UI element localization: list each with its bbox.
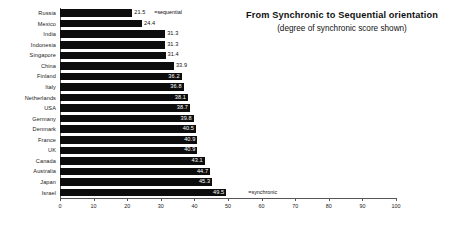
bar-value-label: 33.9 bbox=[176, 62, 187, 70]
bar-row[interactable]: 36.2 bbox=[60, 71, 396, 82]
x-axis-tick-label: 0 bbox=[59, 203, 62, 210]
x-axis-tick-label: 70 bbox=[292, 203, 298, 210]
bar-row[interactable]: 43.1 bbox=[60, 156, 396, 167]
bar-row[interactable]: 45.3 bbox=[60, 177, 396, 188]
bar-value-label: 40.9 bbox=[60, 136, 197, 144]
bar-row[interactable]: 31.3 bbox=[60, 40, 396, 51]
bar-row[interactable]: 36.8 bbox=[60, 82, 396, 93]
category-label: Singapore bbox=[30, 52, 56, 58]
category-label: UK bbox=[48, 147, 56, 153]
bar-row[interactable]: 44.7 bbox=[60, 166, 396, 177]
category-label: Canada bbox=[36, 158, 56, 164]
bar-annotation: =synchronic bbox=[248, 189, 277, 197]
bar[interactable] bbox=[60, 62, 174, 70]
bar-row[interactable]: 24.4 bbox=[60, 19, 396, 30]
bar-row[interactable]: 21.5=sequential bbox=[60, 8, 396, 19]
bar-annotation: =sequential bbox=[154, 9, 182, 17]
x-axis-tick-label: 100 bbox=[392, 203, 401, 210]
bar-value-label: 36.8 bbox=[60, 83, 184, 91]
bar-row[interactable]: 38.7 bbox=[60, 103, 396, 114]
category-label: Italy bbox=[45, 84, 56, 90]
x-axis-tick bbox=[60, 198, 61, 201]
category-axis-labels: RussiaMexicoIndiaIndonesiaSingaporeChina… bbox=[0, 8, 59, 198]
x-axis-tick bbox=[329, 198, 330, 201]
x-axis-tick-label: 10 bbox=[91, 203, 97, 210]
category-label: India bbox=[43, 31, 56, 37]
bar-value-label: 44.7 bbox=[60, 168, 210, 176]
x-axis-tick-label: 40 bbox=[191, 203, 197, 210]
category-label: France bbox=[38, 137, 56, 143]
bar-value-label: 21.5 bbox=[134, 9, 145, 17]
bar[interactable] bbox=[60, 52, 166, 60]
category-label: Israel bbox=[42, 190, 56, 196]
x-axis-tick-label: 80 bbox=[326, 203, 332, 210]
x-axis-tick bbox=[362, 198, 363, 201]
bar-value-label: 38.7 bbox=[60, 104, 190, 112]
x-axis-tick bbox=[295, 198, 296, 201]
bar-value-label: 45.3 bbox=[60, 178, 212, 186]
bar-row[interactable]: 31.3 bbox=[60, 29, 396, 40]
x-axis-tick bbox=[194, 198, 195, 201]
category-label: Mexico bbox=[38, 21, 56, 27]
bar[interactable] bbox=[60, 20, 142, 28]
chart-canvas: From Synchronic to Sequential orientatio… bbox=[0, 0, 456, 233]
x-axis-tick-label: 30 bbox=[158, 203, 164, 210]
bar-row[interactable]: 33.9 bbox=[60, 61, 396, 72]
bar-row[interactable]: 40.9 bbox=[60, 135, 396, 146]
category-label: Denmark bbox=[33, 126, 56, 132]
bar[interactable] bbox=[60, 41, 165, 49]
bar-row[interactable]: 49.5=synchronic bbox=[60, 187, 396, 198]
category-label: Germany bbox=[32, 116, 56, 122]
category-label: Japan bbox=[40, 179, 56, 185]
bar[interactable] bbox=[60, 9, 132, 17]
bar-value-label: 31.4 bbox=[168, 51, 179, 59]
x-axis-tick bbox=[228, 198, 229, 201]
x-axis-tick-label: 60 bbox=[259, 203, 265, 210]
category-label: Netherlands bbox=[25, 95, 56, 101]
bar-row[interactable]: 40.9 bbox=[60, 145, 396, 156]
category-label: Indonesia bbox=[31, 42, 56, 48]
bar-value-label: 43.1 bbox=[60, 157, 205, 165]
category-label: Australia bbox=[33, 168, 56, 174]
bar-value-label: 24.4 bbox=[144, 20, 155, 28]
bar-value-label: 40.5 bbox=[60, 125, 196, 133]
bar-value-label: 36.2 bbox=[60, 73, 182, 81]
bar-row[interactable]: 40.5 bbox=[60, 124, 396, 135]
bar-value-label: 31.3 bbox=[167, 30, 178, 38]
x-axis-tick-label: 90 bbox=[359, 203, 365, 210]
bar-row[interactable]: 31.4 bbox=[60, 50, 396, 61]
bar-row[interactable]: 39.8 bbox=[60, 114, 396, 125]
category-label: Finland bbox=[37, 73, 56, 79]
bar-value-label: 49.5 bbox=[60, 189, 226, 197]
bars-region: 21.5=sequential24.431.331.331.433.936.23… bbox=[60, 8, 396, 198]
x-axis-tick bbox=[94, 198, 95, 201]
category-label: Russia bbox=[38, 10, 56, 16]
x-axis-tick-label: 20 bbox=[124, 203, 130, 210]
x-axis-tick bbox=[396, 198, 397, 201]
bar-value-label: 39.8 bbox=[60, 115, 194, 123]
x-axis-tick bbox=[161, 198, 162, 201]
bar-value-label: 31.3 bbox=[167, 41, 178, 49]
plot-area: RussiaMexicoIndiaIndonesiaSingaporeChina… bbox=[0, 8, 456, 208]
bar-value-label: 38.1 bbox=[60, 94, 188, 102]
bar-row[interactable]: 38.1 bbox=[60, 92, 396, 103]
category-label: China bbox=[41, 63, 56, 69]
category-label: USA bbox=[44, 105, 56, 111]
bar[interactable] bbox=[60, 30, 165, 38]
x-axis-tick bbox=[262, 198, 263, 201]
bar-value-label: 40.9 bbox=[60, 146, 197, 154]
x-axis-tick bbox=[127, 198, 128, 201]
x-axis-tick-label: 50 bbox=[225, 203, 231, 210]
